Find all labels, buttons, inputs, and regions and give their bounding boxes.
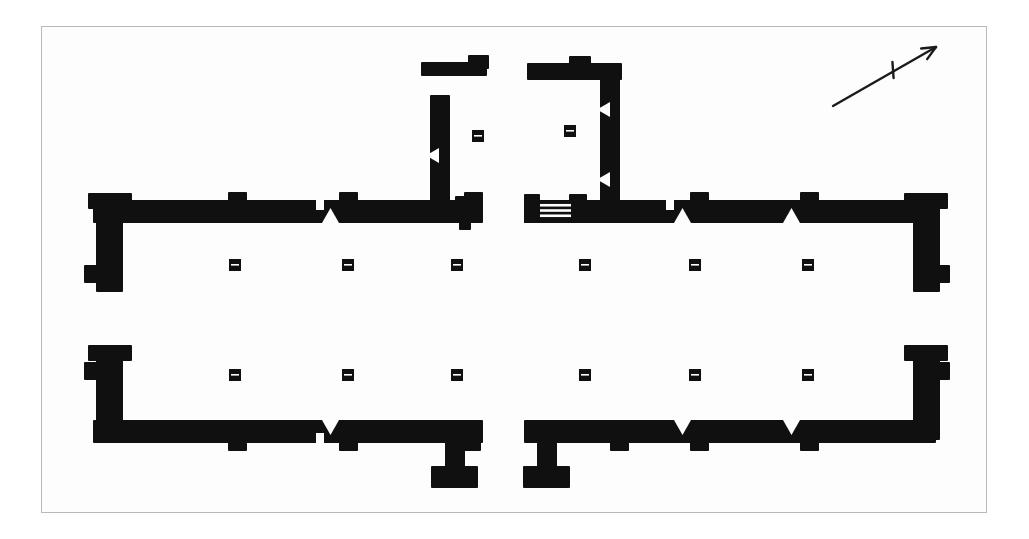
column-u3-joint — [453, 264, 461, 266]
column-court-left — [472, 130, 484, 142]
plan-page: { "document": { "kind": "architectural-f… — [0, 0, 1029, 539]
wall-break-upper-left — [316, 199, 324, 210]
lower-right-foot-spur — [928, 362, 950, 380]
stair-landing-block — [524, 194, 540, 223]
upper-left-spine-pier-b — [339, 192, 358, 208]
column-l1-joint — [231, 374, 239, 376]
column-l5 — [689, 369, 701, 381]
column-u6-joint — [804, 264, 812, 266]
doorway-layer — [322, 102, 800, 435]
column-u3 — [451, 259, 463, 271]
column-court-right-joint — [566, 130, 574, 132]
lower-right-spine-pier-a — [690, 435, 709, 451]
lower-right-spine-pier-c — [610, 435, 629, 451]
court-left-cross-wall — [430, 95, 450, 207]
column-l2-joint — [344, 374, 352, 376]
lower-left-spine-pier-a — [228, 435, 247, 451]
upper-right-foot-spur — [928, 265, 950, 283]
upper-left-spine-pier-a — [228, 192, 247, 208]
upper-left-spine-pier-c — [464, 192, 483, 208]
lower-left-spine-pier-b — [339, 435, 358, 451]
column-u2 — [342, 259, 354, 271]
lower-center-left-foot — [431, 466, 478, 488]
court-right-head-knob — [569, 56, 591, 70]
column-u5-joint — [691, 264, 699, 266]
column-layer — [229, 125, 814, 381]
lower-right-end-cap — [904, 345, 948, 361]
stair-right-pier — [569, 194, 587, 210]
wall-break-upper-right — [666, 199, 674, 210]
lower-left-foot-spur — [84, 362, 106, 380]
column-u1 — [229, 259, 241, 271]
north-arrow-tick — [892, 62, 893, 78]
upper-right-spine-pier-a — [690, 192, 709, 208]
wall-break-lower-left — [316, 433, 324, 444]
lower-left-end-cap — [88, 345, 132, 361]
lower-left-spine — [93, 420, 483, 443]
column-court-left-joint — [474, 135, 482, 137]
upper-right-end-cap — [904, 193, 948, 209]
column-l5-joint — [691, 374, 699, 376]
column-court-right — [564, 125, 576, 137]
column-l3 — [451, 369, 463, 381]
column-u2-joint — [344, 264, 352, 266]
detached-upper-knob — [468, 55, 489, 69]
column-l4-joint — [581, 374, 589, 376]
stair-layer — [540, 200, 571, 221]
column-u5 — [689, 259, 701, 271]
lower-right-spine-pier-b — [800, 435, 819, 451]
north-arrow-shaft — [833, 47, 936, 106]
column-l2 — [342, 369, 354, 381]
upper-right-spine-pier-b — [800, 192, 819, 208]
column-l6-joint — [804, 374, 812, 376]
upper-left-foot-spur — [84, 265, 106, 283]
column-u4-joint — [581, 264, 589, 266]
upper-left-end-cap — [88, 193, 132, 209]
wall-layer — [84, 55, 950, 488]
lower-center-right-foot — [523, 466, 570, 488]
column-u6 — [802, 259, 814, 271]
column-u1-joint — [231, 264, 239, 266]
column-l4 — [579, 369, 591, 381]
floor-plan-drawing — [0, 0, 1029, 539]
court-left-base-foot — [459, 219, 471, 230]
column-l3-joint — [453, 374, 461, 376]
column-l1 — [229, 369, 241, 381]
lower-right-spine — [524, 420, 936, 443]
north-arrow-layer — [833, 47, 936, 106]
column-l6 — [802, 369, 814, 381]
lower-left-spine-pier-c — [462, 435, 481, 451]
upper-left-spine — [93, 200, 483, 223]
column-u4 — [579, 259, 591, 271]
